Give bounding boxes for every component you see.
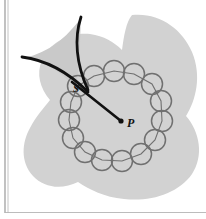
label-p: P <box>127 116 135 130</box>
point-p-marker <box>118 118 123 123</box>
figure-container: S P <box>0 0 206 219</box>
label-s: S <box>73 82 79 94</box>
geometry-figure: S P <box>0 0 206 219</box>
